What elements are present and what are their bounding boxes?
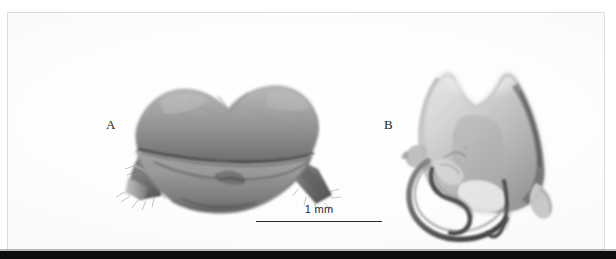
panel-label-a: A [106,118,116,131]
specimen-b-drawing [402,73,553,240]
scale-bar: 1 mm [256,203,382,225]
scale-bar-line [256,221,382,222]
figure-root: A B 1 mm [0,0,616,259]
panel-label-b: B [384,118,393,131]
specimen-a-drawing [116,86,341,213]
specimen-image-b [400,65,578,253]
specimen-image-a [68,65,368,220]
plate-frame: A B 1 mm [7,12,605,250]
bottom-black-bar [0,251,616,259]
scale-bar-label: 1 mm [256,203,382,216]
